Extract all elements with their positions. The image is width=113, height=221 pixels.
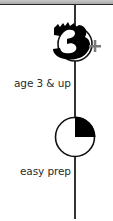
age-label: age 3 & up (14, 77, 71, 89)
age-3-plus-icon (48, 20, 104, 66)
clock-filled-wedge (75, 117, 96, 138)
prep-label: easy prep (20, 165, 71, 177)
top-divider (0, 4, 113, 5)
prep-time-clock-icon (52, 113, 100, 161)
plus-vertical (94, 40, 97, 52)
